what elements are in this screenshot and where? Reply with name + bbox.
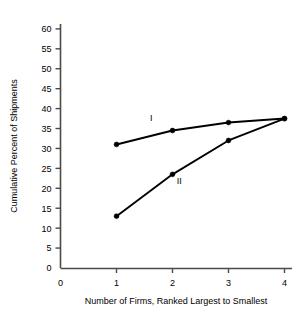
data-point-marker	[170, 128, 175, 133]
x-tick-label: 1	[114, 278, 119, 288]
cumulative-concentration-line-chart: 051015202530354045505560 01234 III Cumul…	[0, 0, 299, 315]
data-point-marker	[282, 116, 287, 121]
y-tick-label: 55	[41, 44, 51, 54]
data-point-marker	[226, 138, 231, 143]
y-tick-label: 0	[46, 263, 51, 273]
y-tick-label: 20	[41, 184, 51, 194]
data-point-marker	[114, 142, 119, 147]
y-tick-label: 60	[41, 24, 51, 34]
y-tick-label: 35	[41, 124, 51, 134]
y-tick-label: 30	[41, 144, 51, 154]
x-tick-label: 0	[58, 278, 63, 288]
data-point-marker	[114, 214, 119, 219]
y-tick-label: 5	[46, 243, 51, 253]
y-tick-label: 15	[41, 204, 51, 214]
y-axis-title: Cumulative Percent of Shipments	[9, 79, 19, 213]
y-tick-label: 40	[41, 104, 51, 114]
y-tick-label: 25	[41, 164, 51, 174]
chart-container: 051015202530354045505560 01234 III Cumul…	[0, 0, 299, 315]
data-point-marker	[226, 120, 231, 125]
x-tick-label: 4	[282, 278, 287, 288]
x-tick-label: 3	[226, 278, 231, 288]
series-annotation-i: I	[150, 113, 153, 123]
data-point-marker	[170, 172, 175, 177]
y-tick-label: 45	[41, 84, 51, 94]
series-annotation-ii: II	[177, 176, 182, 186]
x-axis-title: Number of Firms, Ranked Largest to Small…	[85, 296, 268, 306]
y-tick-label: 10	[41, 224, 51, 234]
x-tick-label: 2	[170, 278, 175, 288]
y-tick-label: 50	[41, 64, 51, 74]
